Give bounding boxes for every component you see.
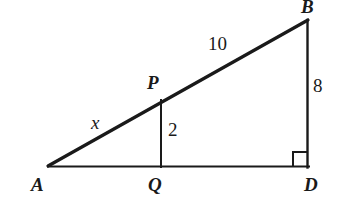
measure-label-2: 2 [168,120,178,139]
geometry-figure: A B P Q D x 2 8 10 [0,0,346,222]
measure-label-8: 8 [313,76,323,95]
right-angle-marker-icon [293,152,307,166]
vertex-label-d: D [304,175,318,194]
measure-label-x: x [91,113,99,132]
segment-hypotenuse-ab [48,20,308,166]
measure-label-10: 10 [208,34,227,53]
triangle-diagram-svg [0,0,346,222]
vertex-label-p: P [147,73,159,92]
vertex-label-q: Q [148,175,162,194]
vertex-label-a: A [31,175,44,194]
vertex-label-b: B [301,0,314,16]
